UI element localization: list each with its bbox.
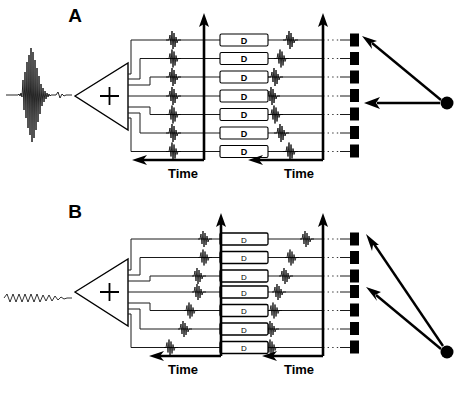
receiver-element[interactable]	[350, 126, 359, 139]
time-axis-label: Time	[284, 362, 314, 377]
receiver-element[interactable]	[350, 341, 359, 354]
figure-root: A	[0, 0, 469, 393]
receiver-element[interactable]	[350, 89, 359, 102]
receiver-element[interactable]	[350, 322, 359, 335]
source-dot-icon	[441, 97, 454, 110]
delay-box-label: D	[241, 254, 247, 263]
receiver-element[interactable]	[350, 145, 359, 158]
delay-box-label: D	[241, 236, 247, 245]
delay-box-label: D	[241, 92, 248, 102]
panel-label-a: A	[68, 5, 82, 26]
receiver-element[interactable]	[350, 251, 359, 264]
receiver-element[interactable]	[350, 52, 359, 65]
delay-box-label: D	[241, 307, 247, 316]
delay-box-label: D	[241, 289, 247, 298]
delay-box-label: D	[241, 110, 248, 120]
panel-label-b: B	[68, 201, 82, 222]
receiver-element[interactable]	[350, 304, 359, 317]
delay-box-label: D	[241, 326, 247, 335]
delay-box-label: D	[241, 273, 247, 282]
receiver-element[interactable]	[350, 233, 359, 246]
delay-box-label: D	[241, 129, 248, 139]
receiver-element[interactable]	[350, 71, 359, 84]
delay-box-label: D	[241, 54, 248, 64]
time-axis-label: Time	[168, 166, 198, 181]
receiver-element[interactable]	[350, 34, 359, 47]
receiver-element[interactable]	[350, 285, 359, 298]
delay-box-label: D	[241, 147, 248, 157]
delay-box-label: D	[241, 36, 248, 46]
time-axis-label: Time	[284, 166, 314, 181]
time-axis-label: Time	[168, 362, 198, 377]
beamforming-diagram: A	[0, 0, 469, 393]
receiver-element[interactable]	[350, 270, 359, 283]
delay-box-label: D	[241, 73, 248, 83]
source-dot-icon	[441, 346, 454, 359]
delay-box-label: D	[241, 344, 247, 353]
receiver-element[interactable]	[350, 108, 359, 121]
